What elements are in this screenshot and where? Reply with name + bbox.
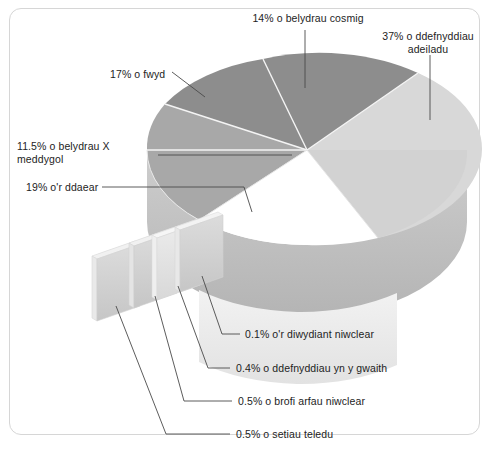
label-medical-xray: 11.5% o belydrau X meddygol [17, 140, 110, 165]
pie-chart-svg [0, 0, 491, 449]
label-food: 17% o fwyd [110, 68, 165, 81]
label-earth: 19% o'r ddaear [26, 181, 98, 194]
label-work-materials: 0.4% o ddefnyddiau yn y gwaith [236, 362, 387, 375]
label-tv-sets: 0.5% o setiau teledu [236, 428, 333, 441]
pie-top-faces [147, 53, 482, 245]
label-cosmic-rays: 14% o belydrau cosmig [243, 12, 373, 25]
label-nuclear-industry: 0.1% o'r diwydiant niwclear [245, 328, 374, 341]
label-weapons-testing: 0.5% o brofi arfau niwclear [238, 395, 365, 408]
label-building-materials: 37% o ddefnyddiau adeiladu [366, 30, 490, 55]
chart-figure: 14% o belydrau cosmig 37% o ddefnyddiau … [0, 0, 491, 449]
